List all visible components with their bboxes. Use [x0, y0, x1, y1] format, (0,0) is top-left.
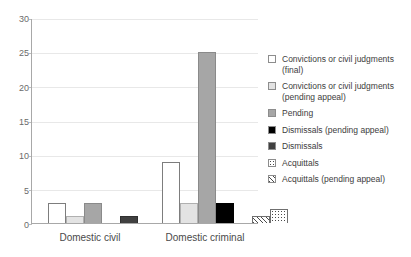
- bar-convictions-final[interactable]: [162, 162, 180, 224]
- legend-swatch-dotted-icon: [268, 159, 276, 167]
- legend-swatch-light-gray-icon: [268, 82, 276, 90]
- legend-item-convictions-final[interactable]: Convictions or civil judgments (final): [268, 54, 411, 75]
- legend-item-acquittals[interactable]: Acquittals: [268, 158, 411, 169]
- legend-swatch-black-icon: [268, 126, 276, 134]
- y-tick-mark: [29, 224, 32, 225]
- y-tick-20: 20: [3, 83, 29, 92]
- bar-dismissals[interactable]: [120, 216, 138, 223]
- y-tick-0: 0: [3, 221, 29, 230]
- plot-area: [31, 19, 258, 224]
- x-label-domestic-criminal: Domestic criminal: [130, 232, 280, 243]
- legend-label: Pending: [282, 108, 313, 119]
- legend-label: Convictions or civil judgments (final): [282, 54, 394, 75]
- legend-item-acquittals-pending-appeal[interactable]: Acquittals (pending appeal): [268, 174, 411, 185]
- bar-convictions-pending-appeal[interactable]: [180, 203, 198, 224]
- bar-acquittals-pending-appeal[interactable]: [252, 216, 270, 223]
- y-tick-30: 30: [3, 15, 29, 24]
- y-tick-15: 15: [3, 118, 29, 127]
- legend-swatch-hatch-icon: [268, 175, 276, 183]
- legend-item-convictions-pending-appeal[interactable]: Convictions or civil judgments (pending …: [268, 81, 411, 102]
- legend-label: Acquittals (pending appeal): [282, 174, 385, 185]
- y-axis: 0 5 10 15 20 25 30: [0, 19, 29, 225]
- bar-group-domestic-civil: [48, 19, 174, 223]
- y-tick-10: 10: [3, 152, 29, 161]
- legend-item-dismissals[interactable]: Dismissals: [268, 141, 411, 152]
- bar-acquittals[interactable]: [270, 209, 288, 223]
- legend-label: Dismissals (pending appeal): [282, 125, 389, 136]
- legend-label: Convictions or civil judgments (pending …: [282, 81, 394, 102]
- legend-swatch-gray-icon: [268, 109, 276, 117]
- y-tick-5: 5: [3, 186, 29, 195]
- legend-label: Dismissals: [282, 141, 323, 152]
- legend-swatch-white-icon: [268, 55, 276, 63]
- bar-convictions-pending-appeal[interactable]: [66, 216, 84, 223]
- bar-convictions-final[interactable]: [48, 203, 66, 224]
- legend-label: Acquittals: [282, 158, 319, 169]
- chart-legend: Convictions or civil judgments (final) C…: [268, 54, 411, 191]
- y-tick-25: 25: [3, 49, 29, 58]
- bar-pending[interactable]: [84, 203, 102, 224]
- legend-item-dismissals-pending-appeal[interactable]: Dismissals (pending appeal): [268, 125, 411, 136]
- bar-pending[interactable]: [198, 52, 216, 223]
- bar-dismissals-pending-appeal[interactable]: [216, 203, 234, 224]
- legend-item-pending[interactable]: Pending: [268, 108, 411, 119]
- legend-swatch-dark-gray-icon: [268, 142, 276, 150]
- bar-chart: 0 5 10 15 20 25 30: [0, 0, 411, 257]
